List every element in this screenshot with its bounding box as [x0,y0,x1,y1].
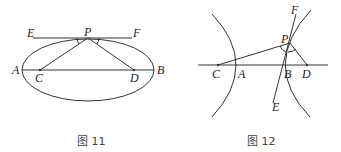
caption-figure-11: 图 11 [77,135,106,148]
tangent-line-EF [273,14,296,103]
label-A: A [11,63,20,77]
label-D: D [301,67,311,81]
caption-figure-12: 图 12 [247,135,276,148]
figure-11-ellipse: E P F A B C D 图 11 [11,25,165,148]
segment-PC [40,38,88,70]
point-D [306,64,308,66]
segment-PD [290,43,307,65]
label-B: B [157,63,165,77]
segment-PC [218,43,290,65]
label-P: P [83,25,92,39]
label-F: F [290,3,299,17]
label-A: A [237,67,246,81]
label-E: E [26,26,35,40]
label-E: E [271,100,280,114]
label-F: F [132,26,141,40]
angle-mark-right [288,49,296,52]
angle-mark-left [280,46,286,52]
figure-12-hyperbola: F P C A B D E 图 12 [198,3,328,148]
label-C: C [212,67,221,81]
point-C [217,64,219,66]
segment-PD [88,38,134,70]
label-P: P [280,32,289,46]
hyperbola-right-branch [285,10,311,117]
label-D: D [129,71,139,85]
label-B: B [284,67,292,81]
label-C: C [35,71,44,85]
figures-canvas: E P F A B C D 图 11 F P C A B D E 图 12 [0,0,341,152]
